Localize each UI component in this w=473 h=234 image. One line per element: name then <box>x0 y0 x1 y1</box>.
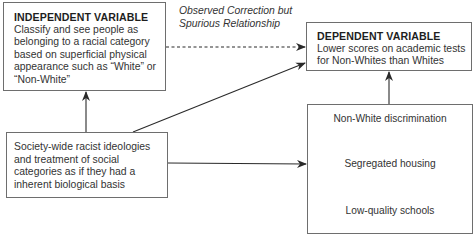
description-line: and treatment of social <box>14 154 162 167</box>
description-line: for Non-Whites than Whites <box>317 55 466 68</box>
root-cause-description: Society-wide racist ideologies and treat… <box>14 141 162 191</box>
annotation-line: Spurious Relationship <box>179 17 292 30</box>
independent-variable-title: INDEPENDENT VARIABLE <box>14 11 160 24</box>
description-line: categories as if they had a <box>14 166 162 179</box>
annotation-line: Observed Correction but <box>179 4 292 17</box>
dependent-variable-box: DEPENDENT VARIABLE Lower scores on acade… <box>306 22 472 71</box>
description-line: Lower scores on academic tests <box>317 43 466 56</box>
description-line: based on superficial physical <box>14 49 160 62</box>
description-line: belonging to a racial category <box>14 36 160 49</box>
description-line: appearance such as “White” or <box>14 61 160 74</box>
root-cause-box: Society-wide racist ideologies and treat… <box>6 132 168 198</box>
causal-chain-box: Non-White discrimination Segregated hous… <box>307 104 473 234</box>
chain-step-discrimination: Non-White discrimination <box>308 113 472 126</box>
description-line: inherent biological basis <box>14 179 162 192</box>
description-line: Society-wide racist ideologies <box>14 141 162 154</box>
independent-variable-box: INDEPENDENT VARIABLE Classify and see pe… <box>3 2 166 91</box>
independent-variable-description: Classify and see people as belonging to … <box>14 24 160 87</box>
spurious-relationship-label: Observed Correction but Spurious Relatio… <box>179 4 292 31</box>
chain-step-housing: Segregated housing <box>308 158 472 171</box>
dependent-variable-title: DEPENDENT VARIABLE <box>317 30 466 43</box>
dependent-variable-description: Lower scores on academic tests for Non-W… <box>317 43 466 68</box>
society-to-chain-arrow <box>168 163 306 164</box>
description-line: Classify and see people as <box>14 24 160 37</box>
chain-step-schools: Low-quality schools <box>308 205 472 218</box>
description-line: “Non-White” <box>14 74 160 87</box>
